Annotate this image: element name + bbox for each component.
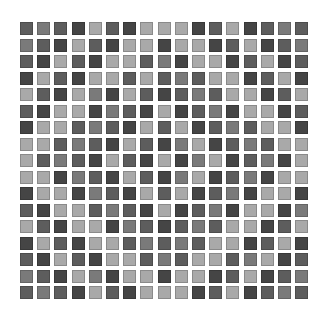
- grid-cell: [20, 154, 33, 167]
- square-grid: [20, 22, 313, 300]
- grid-cell: [295, 187, 308, 200]
- grid-cell: [261, 220, 274, 233]
- grid-cell: [261, 88, 274, 101]
- grid-cell: [123, 121, 136, 134]
- grid-cell: [20, 270, 33, 283]
- grid-cell: [158, 171, 171, 184]
- grid-cell: [123, 55, 136, 68]
- grid-cell: [89, 253, 102, 266]
- grid-cell: [209, 286, 222, 299]
- grid-cell: [106, 138, 119, 151]
- grid-cell: [158, 187, 171, 200]
- grid-cell: [192, 270, 205, 283]
- grid-cell: [106, 39, 119, 52]
- grid-cell: [226, 88, 239, 101]
- grid-cell: [140, 204, 153, 217]
- grid-cell: [226, 187, 239, 200]
- grid-cell: [226, 220, 239, 233]
- grid-cell: [37, 105, 50, 118]
- grid-cell: [123, 171, 136, 184]
- grid-cell: [37, 286, 50, 299]
- grid-cell: [295, 22, 308, 35]
- grid-cell: [20, 204, 33, 217]
- grid-cell: [295, 55, 308, 68]
- grid-cell: [158, 220, 171, 233]
- grid-cell: [278, 286, 291, 299]
- grid-cell: [54, 253, 67, 266]
- grid-cell: [54, 72, 67, 85]
- grid-cell: [175, 72, 188, 85]
- grid-cell: [295, 253, 308, 266]
- grid-cell: [209, 171, 222, 184]
- grid-cell: [226, 286, 239, 299]
- grid-cell: [278, 171, 291, 184]
- grid-cell: [295, 154, 308, 167]
- grid-cell: [226, 171, 239, 184]
- grid-cell: [158, 55, 171, 68]
- grid-cell: [37, 88, 50, 101]
- grid-cell: [37, 72, 50, 85]
- grid-cell: [209, 138, 222, 151]
- grid-cell: [226, 55, 239, 68]
- grid-cell: [175, 171, 188, 184]
- grid-cell: [123, 138, 136, 151]
- grid-cell: [295, 138, 308, 151]
- grid-cell: [158, 121, 171, 134]
- grid-cell: [261, 72, 274, 85]
- grid-cell: [192, 39, 205, 52]
- grid-cell: [175, 105, 188, 118]
- grid-cell: [278, 55, 291, 68]
- grid-cell: [37, 171, 50, 184]
- grid-cell: [226, 72, 239, 85]
- grid-cell: [140, 55, 153, 68]
- grid-cell: [89, 286, 102, 299]
- grid-cell: [226, 39, 239, 52]
- grid-cell: [89, 39, 102, 52]
- grid-cell: [261, 187, 274, 200]
- grid-cell: [261, 138, 274, 151]
- grid-cell: [20, 187, 33, 200]
- grid-cell: [192, 237, 205, 250]
- grid-cell: [54, 220, 67, 233]
- grid-cell: [106, 22, 119, 35]
- grid-cell: [72, 88, 85, 101]
- grid-cell: [106, 121, 119, 134]
- grid-cell: [192, 88, 205, 101]
- grid-cell: [20, 105, 33, 118]
- grid-cell: [123, 72, 136, 85]
- grid-cell: [89, 237, 102, 250]
- grid-cell: [123, 22, 136, 35]
- grid-cell: [37, 39, 50, 52]
- grid-cell: [140, 220, 153, 233]
- grid-cell: [209, 237, 222, 250]
- grid-cell: [295, 171, 308, 184]
- grid-cell: [295, 121, 308, 134]
- grid-cell: [72, 286, 85, 299]
- grid-cell: [261, 105, 274, 118]
- grid-cell: [72, 171, 85, 184]
- grid-cell: [106, 171, 119, 184]
- grid-cell: [54, 270, 67, 283]
- grid-cell: [226, 22, 239, 35]
- grid-cell: [226, 121, 239, 134]
- grid-cell: [20, 237, 33, 250]
- grid-cell: [140, 138, 153, 151]
- grid-cell: [278, 187, 291, 200]
- grid-cell: [158, 286, 171, 299]
- grid-cell: [20, 22, 33, 35]
- grid-cell: [54, 187, 67, 200]
- grid-cell: [226, 154, 239, 167]
- grid-cell: [37, 237, 50, 250]
- grid-cell: [244, 105, 257, 118]
- grid-cell: [226, 105, 239, 118]
- grid-cell: [54, 138, 67, 151]
- grid-cell: [261, 286, 274, 299]
- grid-cell: [158, 204, 171, 217]
- grid-cell: [140, 105, 153, 118]
- grid-cell: [140, 154, 153, 167]
- grid-cell: [175, 154, 188, 167]
- grid-cell: [226, 138, 239, 151]
- grid-cell: [278, 270, 291, 283]
- grid-cell: [175, 22, 188, 35]
- grid-cell: [106, 72, 119, 85]
